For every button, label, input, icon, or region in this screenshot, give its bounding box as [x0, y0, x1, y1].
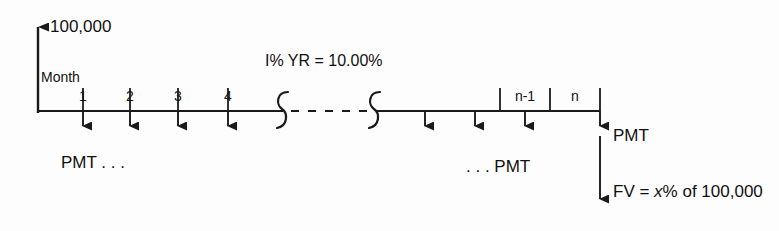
- period-label-n: n: [571, 89, 579, 103]
- timeline-diagram: 100,000 Month 1 2 3 4 n-1 n I% YR = 10.0…: [0, 0, 779, 231]
- principal-amount-label: 100,000: [50, 18, 111, 35]
- period-label-3: 3: [174, 89, 182, 103]
- payment-arrows: [83, 111, 525, 126]
- interest-rate-label: I% YR = 10.00%: [265, 53, 383, 69]
- period-label-4: 4: [224, 89, 232, 103]
- future-value-prefix: FV =: [613, 182, 654, 201]
- future-value-label: FV = x% of 100,000: [613, 183, 763, 200]
- payment-label-left: PMT . . .: [61, 154, 125, 171]
- payment-label-final: PMT: [613, 127, 649, 144]
- future-value-suffix: % of 100,000: [663, 182, 763, 201]
- axis-unit-label: Month: [41, 70, 80, 84]
- future-value-variable: x: [654, 182, 663, 201]
- period-label-2: 2: [126, 89, 134, 103]
- period-label-n-minus-1: n-1: [515, 89, 535, 103]
- payment-label-right: . . . PMT: [466, 158, 530, 175]
- period-label-1: 1: [79, 89, 87, 103]
